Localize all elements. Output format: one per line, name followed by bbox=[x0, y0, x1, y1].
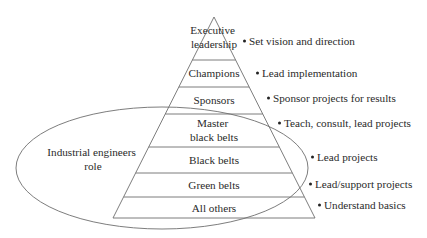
bullet-icon bbox=[309, 183, 312, 186]
tier-sponsors: Sponsors bbox=[193, 94, 234, 106]
bullet-icon bbox=[311, 156, 314, 159]
industrial-engineers-oval bbox=[16, 107, 308, 229]
tier-black-belts: Black belts bbox=[189, 154, 239, 166]
role-lead-projects: Lead projects bbox=[317, 151, 378, 163]
role-lead-support-projects: Lead/support projects bbox=[315, 178, 412, 190]
tier-all-others: All others bbox=[192, 202, 236, 214]
role-set-vision: Set vision and direction bbox=[249, 35, 355, 47]
tier-champions: Champions bbox=[189, 67, 240, 79]
bullet-icon bbox=[267, 97, 270, 100]
role-sponsor-projects: Sponsor projects for results bbox=[273, 92, 396, 104]
bullet-icon bbox=[318, 204, 321, 207]
tier-executive-leadership: Executive leadership bbox=[190, 24, 238, 50]
tier-green-belts: Green belts bbox=[188, 179, 239, 191]
role-lead-implementation: Lead implementation bbox=[262, 67, 358, 79]
industrial-engineers-role-label: Industrial engineers role bbox=[47, 146, 138, 172]
bullet-icon bbox=[278, 122, 281, 125]
bullet-icon bbox=[256, 72, 259, 75]
six-sigma-role-pyramid: Executive leadership Champions Sponsors … bbox=[0, 0, 427, 238]
tier-master-black-belts: Master black belts bbox=[190, 117, 238, 143]
role-understand-basics: Understand basics bbox=[324, 199, 406, 211]
bullet-icon bbox=[243, 40, 246, 43]
role-teach-consult: Teach, consult, lead projects bbox=[284, 117, 411, 129]
